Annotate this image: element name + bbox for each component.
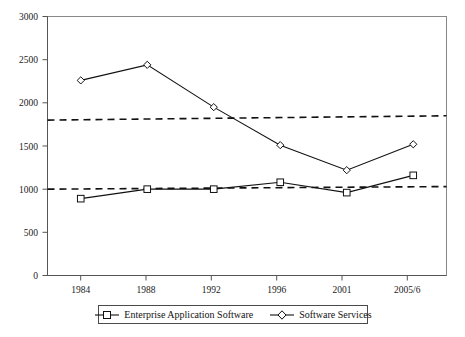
data-point-diamond-marker [210, 104, 217, 111]
data-point-square-marker [277, 179, 284, 186]
chart-legend: Enterprise Application Software Software… [98, 305, 368, 324]
legend-item-software-services: Software Services [269, 309, 371, 321]
y-tick-label: 2000 [19, 98, 38, 108]
data-point-square-marker [210, 186, 217, 193]
line-chart-figure: 3000 2500 2000 1500 1000 500 0 1984 19 [0, 0, 465, 337]
data-series-group [77, 61, 417, 202]
legend-diamond-marker-icon [269, 309, 295, 321]
y-tick-label: 3000 [19, 12, 38, 22]
y-tick-label: 1500 [19, 142, 38, 152]
x-tick-label: 1996 [267, 285, 286, 295]
data-point-diamond-marker [343, 167, 350, 174]
data-point-diamond-marker [144, 61, 151, 68]
x-tick-labels: 1984 1988 1992 1996 2001 2005/6 [71, 285, 421, 295]
y-tick-label: 2500 [19, 55, 38, 65]
plot-area-border [48, 17, 447, 276]
data-series [77, 61, 417, 174]
x-tick-label: 1984 [71, 285, 90, 295]
data-point-square-marker [144, 186, 151, 193]
series-polyline [81, 65, 414, 170]
data-point-diamond-marker [77, 77, 84, 84]
data-point-square-marker [410, 172, 417, 179]
data-point-diamond-marker [277, 142, 284, 149]
data-point-square-marker [343, 189, 350, 196]
legend-label: Software Services [299, 310, 371, 320]
trendlines-group [48, 116, 447, 189]
x-tick-label: 1992 [202, 285, 221, 295]
data-point-diamond-marker [410, 141, 417, 148]
y-tick-label: 500 [24, 228, 39, 238]
chart-page: 3000 2500 2000 1500 1000 500 0 1984 19 [0, 0, 465, 337]
legend-square-marker-icon [94, 309, 120, 321]
data-point-square-marker [77, 195, 84, 202]
legend-item-enterprise-application-software: Enterprise Application Software [94, 309, 253, 321]
y-tick-label: 0 [33, 271, 38, 281]
y-tick-labels: 3000 2500 2000 1500 1000 500 0 [19, 12, 38, 281]
y-tick-marks [43, 17, 48, 276]
trend-line [48, 187, 447, 190]
trend-line [48, 116, 447, 120]
x-tick-label: 2001 [333, 285, 352, 295]
x-tick-marks [81, 276, 408, 281]
legend-label: Enterprise Application Software [124, 310, 253, 320]
x-tick-label: 2005/6 [394, 285, 421, 295]
x-tick-label: 1988 [137, 285, 156, 295]
y-tick-label: 1000 [19, 185, 38, 195]
chart-plot-svg: 3000 2500 2000 1500 1000 500 0 1984 19 [0, 0, 465, 337]
